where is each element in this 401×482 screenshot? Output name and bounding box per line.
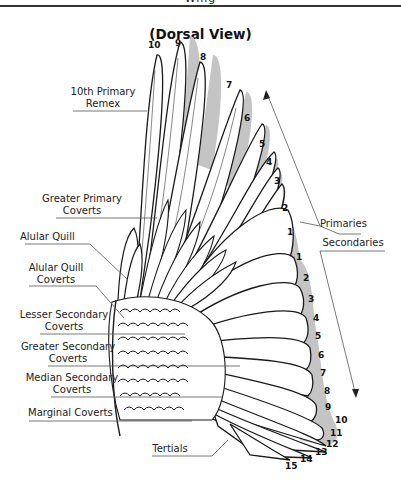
- label-line-2: Coverts: [16, 353, 120, 365]
- secondary-number-12: 12: [326, 439, 339, 449]
- label-line-2: Remex: [58, 98, 148, 110]
- primary-number-2: 2: [282, 203, 288, 213]
- alula: [118, 228, 142, 302]
- label-line-2: Coverts: [14, 321, 114, 333]
- secondary-number-10: 10: [335, 415, 348, 425]
- primary-number-10: 10: [148, 40, 161, 50]
- label-line-1: Greater Secondary: [16, 341, 120, 353]
- label-line-1: 10th Primary: [58, 86, 148, 98]
- label-line-2: Coverts: [18, 274, 94, 286]
- primary-number-9: 9: [175, 38, 181, 48]
- secondary-number-6: 6: [318, 350, 324, 360]
- label-line-1: Greater Primary: [32, 193, 132, 205]
- label-line-2: Coverts: [32, 205, 132, 217]
- secondary-number-9: 9: [325, 402, 331, 412]
- label-greater-primary-coverts: Greater Primary Coverts: [32, 193, 132, 217]
- secondary-number-13: 13: [315, 447, 328, 457]
- label-primaries: Primaries: [320, 218, 364, 230]
- secondary-number-15: 15: [285, 461, 298, 471]
- label-greater-secondary-coverts: Greater Secondary Coverts: [16, 341, 120, 365]
- primary-number-5: 5: [259, 139, 265, 149]
- label-line-1: Alular Quill: [18, 262, 94, 274]
- label-10th-primary-remex: 10th Primary Remex: [58, 86, 148, 110]
- label-line-1: Lesser Secondary: [14, 309, 114, 321]
- secondary-number-7: 7: [320, 368, 326, 378]
- label-line-1: Median Secondary: [22, 372, 122, 384]
- label-line-2: Coverts: [22, 384, 122, 396]
- secondary-number-2: 2: [303, 273, 309, 283]
- primary-number-1: 1: [287, 227, 293, 237]
- label-median-secondary-coverts: Median Secondary Coverts: [22, 372, 122, 396]
- secondary-number-11: 11: [330, 428, 343, 438]
- secondary-number-4: 4: [313, 313, 319, 323]
- primary-number-7: 7: [226, 80, 232, 90]
- primary-number-4: 4: [266, 157, 272, 167]
- label-tertials: Tertials: [150, 443, 190, 455]
- label-alular-quill-coverts: Alular Quill Coverts: [18, 262, 94, 286]
- primary-number-3: 3: [274, 176, 280, 186]
- secondary-number-14: 14: [300, 454, 313, 464]
- label-marginal-coverts: Marginal Coverts: [28, 407, 112, 419]
- primary-number-8: 8: [200, 52, 206, 62]
- primary-number-6: 6: [244, 113, 250, 123]
- label-alular-quill: Alular Quill: [20, 231, 100, 243]
- label-secondaries: Secondaries: [322, 237, 384, 249]
- label-lesser-secondary-coverts: Lesser Secondary Coverts: [14, 309, 114, 333]
- secondary-number-8: 8: [324, 386, 330, 396]
- secondary-number-3: 3: [308, 294, 314, 304]
- secondary-number-1: 1: [296, 252, 302, 262]
- secondary-number-5: 5: [315, 331, 321, 341]
